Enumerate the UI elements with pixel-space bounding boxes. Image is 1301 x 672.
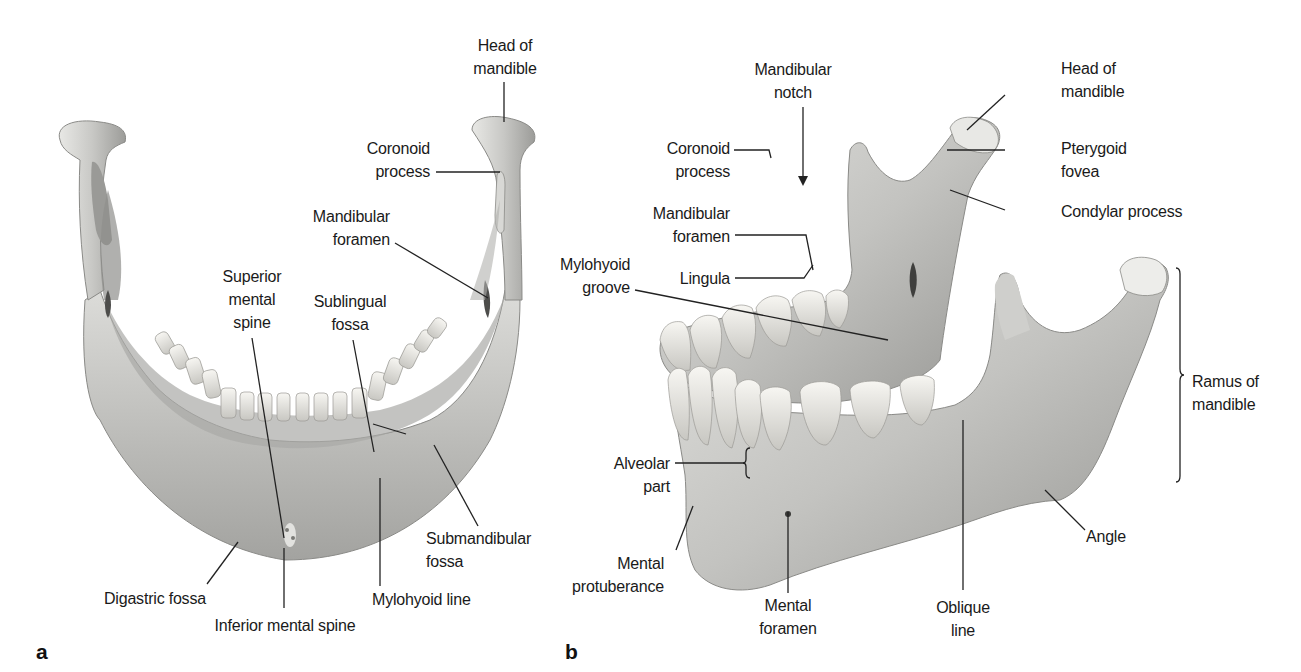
label-a-digastric-fossa: Digastric fossa — [104, 587, 244, 610]
label-b-ramus-of-mandible: Ramus of mandible — [1192, 370, 1292, 416]
mandible-figure: Head of mandible Coronoid process Mandib… — [0, 0, 1301, 672]
panel-letter-a: a — [36, 640, 48, 664]
label-a-submandibular-fossa: Submandibular fossa — [426, 527, 566, 573]
label-a-sublingual-fossa: Sublingual fossa — [290, 290, 410, 336]
label-b-coronoid-process: Coronoid process — [590, 137, 730, 183]
label-b-condylar-process: Condylar process — [1061, 200, 1221, 223]
label-a-coronoid-process: Coronoid process — [330, 137, 430, 183]
label-b-lingula: Lingula — [620, 267, 730, 290]
label-b-mandibular-notch: Mandibular notch — [743, 58, 843, 104]
label-a-mylohyoid-line: Mylohyoid line — [372, 588, 512, 611]
label-b-mandibular-foramen: Mandibular foramen — [620, 202, 730, 248]
label-b-mental-foramen: Mental foramen — [740, 594, 836, 640]
label-a-head-of-mandible: Head of mandible — [458, 34, 552, 80]
label-b-angle: Angle — [1086, 525, 1166, 548]
label-b-pterygoid-fovea: Pterygoid fovea — [1061, 137, 1171, 183]
label-a-mandibular-foramen: Mandibular foramen — [270, 205, 390, 251]
label-a-inferior-mental-spine: Inferior mental spine — [180, 614, 390, 637]
label-b-alveolar-part: Alveolar part — [570, 452, 670, 498]
label-b-mylohyoid-groove: Mylohyoid groove — [560, 253, 630, 299]
label-b-head-of-mandible: Head of mandible — [1061, 57, 1171, 103]
panel-b-bone — [660, 117, 1168, 590]
label-b-oblique-line: Oblique line — [918, 596, 1008, 642]
panel-letter-b: b — [565, 640, 578, 664]
panel-a-bone — [59, 117, 535, 561]
label-b-mental-protuberance: Mental protuberance — [560, 552, 664, 598]
